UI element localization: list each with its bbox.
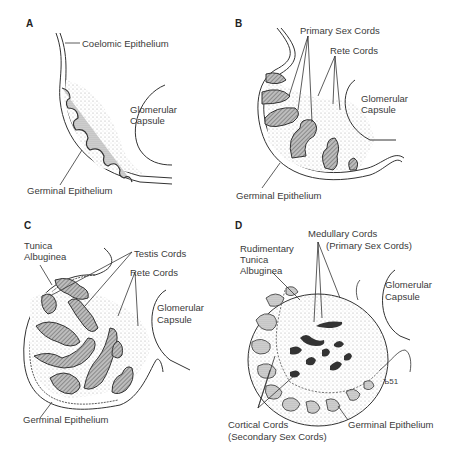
panel-b: B Primary Sex Cords Rete Cords Glomerula… [228,0,456,226]
label-glomerular: Glomerular [385,279,432,290]
label-cortical-cords: Cortical Cords [228,419,288,430]
panel-d: D Medullary Cords (Primary Sex Cords) Ru… [228,226,456,452]
label-germinal-epithelium: Germinal Epithelium [348,419,434,430]
label-rudimentary: Rudimentary [240,243,294,254]
label-rete-cords: Rete Cords [130,267,178,278]
artist-signature: Ъ51 [383,376,398,387]
label-albuginea: Albuginea [240,265,282,276]
panel-label: A [26,18,33,29]
label-capsule: Capsule [385,291,420,302]
label-primary-sex-cords: Primary Sex Cords [300,25,380,36]
label-germinal-epithelium: Germinal Epithelium [236,190,322,201]
label-coelomic-epithelium: Coelomic Epithelium [82,38,169,49]
panel-label: D [235,220,242,231]
panel-a: A Coelomic Epithelium Glomerular Capsule… [0,0,228,226]
label-tunica: Tunica [240,254,268,265]
label-albuginea: Albuginea [24,251,66,262]
label-capsule: Capsule [130,115,165,126]
label-medullary-cords: Medullary Cords [308,228,377,239]
label-glomerular: Glomerular [130,104,177,115]
label-rete-cords: Rete Cords [330,45,378,56]
label-germinal-epithelium: Germinal Epithelium [23,414,109,425]
panel-label: B [235,18,242,29]
label-primary-sex-cords: (Primary Sex Cords) [326,240,412,251]
label-glomerular: Glomerular [157,302,204,313]
label-glomerular: Glomerular [361,93,408,104]
panel-c: C Tunica Albuginea Testis Cords Rete Cor… [0,226,228,452]
label-secondary-sex-cords: (Secondary Sex Cords) [228,431,327,442]
label-capsule: Capsule [361,104,396,115]
label-testis-cords: Testis Cords [134,248,186,259]
panel-label: C [24,220,31,231]
label-tunica: Tunica [24,240,52,251]
label-germinal-epithelium: Germinal Epithelium [27,185,113,196]
label-capsule: Capsule [157,314,192,325]
